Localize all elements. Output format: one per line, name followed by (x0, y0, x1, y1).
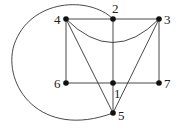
node-label-2: 2 (112, 1, 119, 16)
node-6 (63, 80, 69, 86)
straight-edges (66, 19, 159, 113)
node-label-4: 4 (54, 12, 61, 27)
node-2 (110, 16, 116, 22)
edges (12, 5, 159, 121)
edge-2-5-arc (12, 5, 113, 121)
node-label-5: 5 (118, 108, 125, 123)
edge-4-3-curve (66, 19, 159, 43)
graph-diagram: 1234567 (0, 0, 178, 134)
node-5 (110, 110, 116, 116)
nodes (63, 16, 162, 116)
node-label-6: 6 (54, 76, 61, 91)
node-3 (156, 16, 162, 22)
node-7 (156, 80, 162, 86)
node-label-3: 3 (164, 12, 171, 27)
node-4 (63, 16, 69, 22)
node-1 (110, 80, 116, 86)
edge-4-5 (66, 19, 113, 113)
node-label-1: 1 (114, 86, 121, 101)
node-label-7: 7 (164, 76, 171, 91)
